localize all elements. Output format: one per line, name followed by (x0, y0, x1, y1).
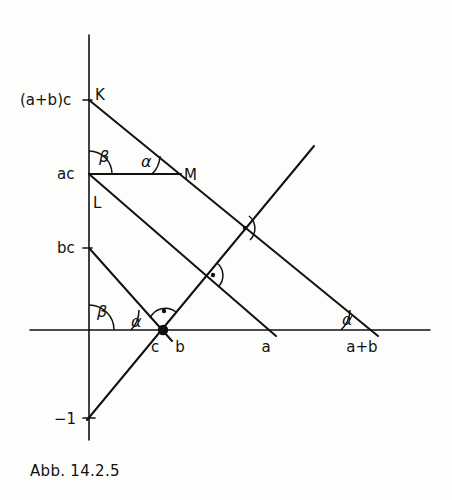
right-angle-lower (211, 263, 223, 287)
angle-label-beta-lower: β (96, 302, 107, 321)
figure-container: (a+b)c ac bc −1 c b a a+b K M L β α β α … (0, 0, 452, 500)
figure-caption: Abb. 14.2.5 (30, 462, 120, 480)
diagram-svg: (a+b)c ac bc −1 c b a a+b K M L β α β α … (0, 0, 452, 500)
xlabel-b: b (175, 338, 185, 356)
xlabel-c: c (151, 338, 159, 356)
angle-label-beta-upper: β (98, 147, 109, 166)
ylabel-bc: bc (57, 239, 75, 257)
point-label-M: M (184, 166, 197, 184)
angle-label-alpha-upper: α (141, 152, 152, 171)
angle-label-alpha-origin: α (131, 312, 142, 331)
point-c-marker (158, 325, 168, 335)
xlabel-a: a (261, 338, 270, 356)
angle-arc-alpha-upper (152, 156, 160, 174)
ylabel-ac: ac (57, 165, 74, 183)
ylabel-minus-one: −1 (54, 410, 76, 428)
ylabel-a-plus-b-c: (a+b)c (20, 91, 71, 109)
point-label-L: L (93, 194, 102, 212)
point-label-K: K (95, 86, 106, 104)
right-angle-upper (243, 216, 255, 240)
angle-label-alpha-right: α (342, 310, 353, 329)
ray-ac-to-a (89, 174, 276, 336)
ray-K-to-a-plus-b (89, 100, 378, 336)
xlabel-a-plus-b: a+b (346, 338, 377, 356)
